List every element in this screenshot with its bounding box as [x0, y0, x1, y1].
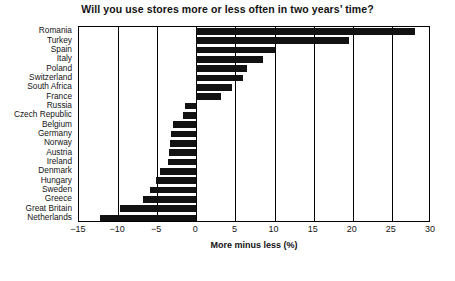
chart-title: Will you use stores more or less often i…	[0, 3, 455, 15]
x-axis-tick-labels: −15−10−5051015202530	[0, 224, 455, 238]
bar-row	[79, 102, 429, 111]
bar-italy	[196, 56, 262, 63]
bar-netherlands	[100, 215, 196, 222]
bar-row	[79, 158, 429, 167]
category-label-netherlands: Netherlands	[27, 213, 72, 223]
bar-chart-figure: Will you use stores more or less often i…	[0, 0, 455, 281]
bar-row	[79, 120, 429, 129]
x-axis-label: More minus less (%)	[78, 240, 430, 250]
bar-row	[79, 92, 429, 101]
x-tick-25: 25	[371, 224, 411, 234]
bar-switzerland	[196, 75, 243, 82]
bar-france	[196, 93, 221, 100]
bar-row	[79, 55, 429, 64]
bar-south-africa	[196, 84, 231, 91]
plot-area	[78, 26, 430, 222]
bar-sweden	[150, 187, 196, 194]
bar-row	[79, 214, 429, 223]
x-tick--10: −10	[97, 224, 137, 234]
bar-row	[79, 27, 429, 36]
bar-row	[79, 130, 429, 139]
bar-hungary	[156, 177, 197, 184]
bar-row	[79, 176, 429, 185]
bar-poland	[196, 65, 247, 72]
bar-row	[79, 139, 429, 148]
x-tick--5: −5	[136, 224, 176, 234]
bar-row	[79, 36, 429, 45]
bar-series	[79, 27, 429, 221]
bar-turkey	[196, 37, 349, 44]
bar-norway	[170, 140, 197, 147]
bar-row	[79, 148, 429, 157]
x-tick-20: 20	[332, 224, 372, 234]
bar-greece	[143, 196, 196, 203]
y-axis-category-labels: RomaniaTurkeySpainItalyPolandSwitzerland…	[0, 26, 75, 222]
bar-denmark	[160, 168, 196, 175]
bar-great-britain	[120, 205, 197, 212]
bar-romania	[196, 28, 415, 35]
bar-germany	[171, 131, 196, 138]
bar-row	[79, 167, 429, 176]
bar-russia	[185, 103, 197, 110]
bar-czech-republic	[183, 112, 196, 119]
bar-spain	[196, 47, 274, 54]
bar-austria	[169, 149, 196, 156]
bar-belgium	[173, 121, 196, 128]
x-tick-30: 30	[410, 224, 450, 234]
bar-row	[79, 111, 429, 120]
x-tick-0: 0	[175, 224, 215, 234]
bar-ireland	[168, 159, 196, 166]
bar-row	[79, 64, 429, 73]
x-tick--15: −15	[58, 224, 98, 234]
x-tick-15: 15	[293, 224, 333, 234]
bar-row	[79, 204, 429, 213]
bar-row	[79, 186, 429, 195]
x-tick-5: 5	[214, 224, 254, 234]
x-tick-10: 10	[254, 224, 294, 234]
bar-row	[79, 46, 429, 55]
bar-row	[79, 195, 429, 204]
bar-row	[79, 83, 429, 92]
bar-row	[79, 74, 429, 83]
